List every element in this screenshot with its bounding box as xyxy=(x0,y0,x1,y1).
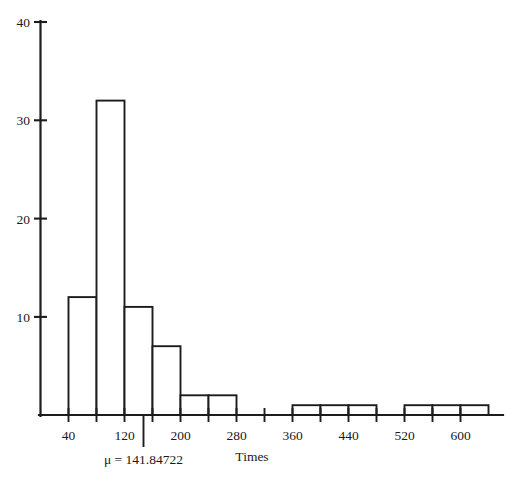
x-tick-label-280: 280 xyxy=(226,428,247,443)
y-tick-label-40: 40 xyxy=(17,15,31,30)
x-tick-label-40: 40 xyxy=(62,428,76,443)
y-tick-label-30: 30 xyxy=(17,113,31,128)
bar-bin-520-560 xyxy=(433,405,461,415)
bar-bin-320-360 xyxy=(293,405,321,415)
y-tick-label-10: 10 xyxy=(17,310,31,325)
x-tick-label-600: 600 xyxy=(450,428,471,443)
bar-bin-400-440 xyxy=(349,405,377,415)
bar-bin-80-120 xyxy=(97,101,125,415)
y-axis-tick-labels: 40 30 20 10 xyxy=(17,15,31,325)
histogram-bars xyxy=(69,101,489,415)
x-tick-label-200: 200 xyxy=(170,428,191,443)
bar-bin-560-600 xyxy=(461,405,489,415)
x-tick-label-440: 440 xyxy=(338,428,359,443)
histogram-plot: 40 30 20 10 40 120 200 xyxy=(0,0,519,482)
bar-bin-40-80 xyxy=(69,297,97,415)
bar-bin-160-200 xyxy=(153,346,181,415)
bar-bin-240-280 xyxy=(209,395,237,415)
x-tick-label-360: 360 xyxy=(282,428,303,443)
x-tick-label-120: 120 xyxy=(114,428,135,443)
x-tick-label-520: 520 xyxy=(394,428,415,443)
bar-bin-480-520 xyxy=(405,405,433,415)
bar-bin-120-160 xyxy=(125,307,153,415)
histogram-figure: 40 30 20 10 40 120 200 xyxy=(0,0,519,482)
y-tick-label-20: 20 xyxy=(17,212,31,227)
x-axis-tick-labels: 40 120 200 280 360 440 520 600 xyxy=(62,428,471,443)
mean-marker-label: μ = 141.84722 xyxy=(104,452,183,467)
bar-bin-360-400 xyxy=(321,405,349,415)
x-axis-title: Times xyxy=(235,449,268,464)
bar-bin-200-240 xyxy=(181,395,209,415)
